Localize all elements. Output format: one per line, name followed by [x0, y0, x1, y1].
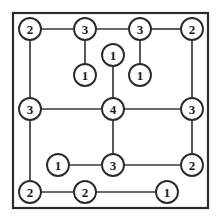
node-circle[interactable] [181, 18, 203, 40]
graph-node[interactable]: 1 [47, 154, 69, 176]
graph-node[interactable]: 3 [74, 18, 96, 40]
node-circle[interactable] [102, 154, 124, 176]
graph-node[interactable]: 1 [129, 64, 151, 86]
node-circle[interactable] [102, 98, 124, 120]
node-circle[interactable] [181, 98, 203, 120]
graph-node[interactable]: 2 [19, 18, 41, 40]
node-circle[interactable] [74, 64, 96, 86]
graph-node[interactable]: 3 [129, 18, 151, 40]
node-circle[interactable] [19, 18, 41, 40]
node-circle[interactable] [19, 98, 41, 120]
node-circle[interactable] [74, 18, 96, 40]
graph-node[interactable]: 2 [181, 18, 203, 40]
node-circle[interactable] [129, 18, 151, 40]
graph-node[interactable]: 4 [102, 98, 124, 120]
graph-node[interactable]: 1 [74, 64, 96, 86]
node-circle[interactable] [156, 181, 178, 203]
node-circle[interactable] [47, 154, 69, 176]
graph-node[interactable]: 2 [19, 181, 41, 203]
node-circle[interactable] [19, 181, 41, 203]
node-circle[interactable] [102, 44, 124, 66]
graph-svg: 2332111343132221 [0, 0, 222, 216]
diagram-canvas: 2332111343132221 [0, 0, 222, 216]
graph-node[interactable]: 1 [102, 44, 124, 66]
graph-node[interactable]: 3 [181, 98, 203, 120]
graph-node[interactable]: 1 [156, 181, 178, 203]
graph-node[interactable]: 2 [74, 181, 96, 203]
graph-node[interactable]: 2 [181, 154, 203, 176]
graph-node[interactable]: 3 [102, 154, 124, 176]
node-circle[interactable] [181, 154, 203, 176]
graph-node[interactable]: 3 [19, 98, 41, 120]
node-circle[interactable] [129, 64, 151, 86]
node-circle[interactable] [74, 181, 96, 203]
